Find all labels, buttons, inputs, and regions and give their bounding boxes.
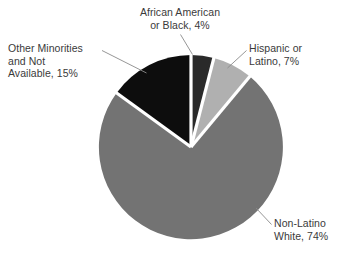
pie-label-hispanic: Hispanic or Latino, 7% xyxy=(249,42,349,67)
leader-line-hispanic xyxy=(228,51,247,69)
leader-line-non-latino-white xyxy=(256,208,272,225)
pie-label-african-american: African American or Black, 4% xyxy=(119,6,241,31)
pie-label-non-latino-white: Non-Latino White, 74% xyxy=(274,217,352,242)
leader-line-african-american xyxy=(181,35,193,55)
pie-chart: African American or Black, 4% Other Mino… xyxy=(0,0,352,257)
pie-label-other-minorities: Other Minorities and Not Available, 15% xyxy=(8,42,120,80)
